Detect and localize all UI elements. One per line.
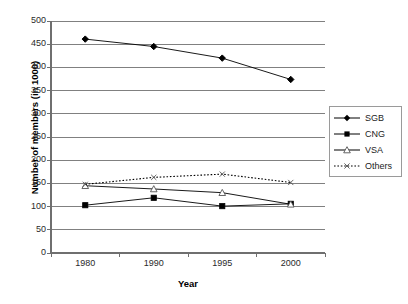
legend-marker-x-cross-icon <box>332 159 362 173</box>
legend-label: SGB <box>362 113 384 123</box>
data-point-others-1995 <box>220 172 225 177</box>
data-point-sgb-2000 <box>288 76 294 82</box>
data-point-cng-1990 <box>151 195 156 200</box>
legend-item-0[interactable]: SGB <box>332 110 399 126</box>
legend-label: Others <box>362 161 392 171</box>
data-point-others-1990 <box>151 175 156 180</box>
legend-label: CNG <box>362 129 385 139</box>
legend-item-1[interactable]: CNG <box>332 126 399 142</box>
series-line-sgb <box>85 39 291 79</box>
legend-item-2[interactable]: VSA <box>332 142 399 158</box>
x-tick-label: 1995 <box>188 258 256 268</box>
x-tick-label: 1980 <box>51 258 119 268</box>
data-point-sgb-1995 <box>219 55 225 61</box>
data-point-cng-1995 <box>220 204 225 209</box>
legend-marker-open-triangle-icon <box>332 143 362 157</box>
x-tick-label: 1990 <box>120 258 188 268</box>
x-axis-title: Year <box>51 278 325 289</box>
data-point-cng-1980 <box>83 203 88 208</box>
chart-legend: SGB CNG VSA Others <box>329 106 402 177</box>
legend-marker-filled-diamond-icon <box>332 111 362 125</box>
series-line-others <box>85 174 291 184</box>
legend-item-3[interactable]: Others <box>332 158 399 174</box>
legend-marker-filled-square-icon <box>332 127 362 141</box>
data-point-sgb-1980 <box>82 36 88 42</box>
x-tick-label: 2000 <box>257 258 325 268</box>
legend-label: VSA <box>362 145 383 155</box>
chart-container: Number of members (in 1000) 050100150200… <box>0 0 408 304</box>
